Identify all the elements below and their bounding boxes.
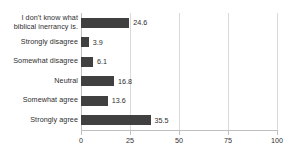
bar-value-label: 13.6 xyxy=(112,97,126,104)
bar[interactable] xyxy=(81,37,89,47)
category-label: Strongly agree xyxy=(0,111,78,131)
bar-row: 6.1 xyxy=(81,52,277,72)
x-axis-tick-label: 25 xyxy=(126,136,134,145)
x-axis-tick-labels: 0255075100 xyxy=(81,136,278,148)
bar-row: 13.6 xyxy=(81,91,277,111)
category-axis-labels: I don't know whatbiblical inerrancy is.S… xyxy=(0,13,78,130)
category-label: Somewhat agree xyxy=(0,91,78,111)
x-axis-tick xyxy=(228,131,229,135)
category-label: Somewhat disagree xyxy=(0,52,78,72)
x-axis-tick xyxy=(130,131,131,135)
bar-row: 3.9 xyxy=(81,33,277,53)
x-axis-tick xyxy=(277,131,278,135)
gridline xyxy=(277,13,278,130)
x-axis-tick xyxy=(179,131,180,135)
bar-value-label: 35.5 xyxy=(155,117,169,124)
category-label: Strongly disagree xyxy=(0,33,78,53)
x-axis-tick-label: 100 xyxy=(271,136,283,145)
bar-chart: I don't know whatbiblical inerrancy is.S… xyxy=(0,0,289,163)
chart-title xyxy=(0,0,289,11)
category-label: I don't know whatbiblical inerrancy is. xyxy=(0,13,78,33)
bar-row: 24.6 xyxy=(81,13,277,33)
x-axis-tick xyxy=(81,131,82,135)
bar[interactable] xyxy=(81,18,129,28)
bar-row: 16.8 xyxy=(81,72,277,92)
category-label: Neutral xyxy=(0,72,78,92)
bar-row: 35.5 xyxy=(81,111,277,131)
bar[interactable] xyxy=(81,57,93,67)
bar[interactable] xyxy=(81,76,114,86)
bar[interactable] xyxy=(81,96,108,106)
x-axis-tick-label: 75 xyxy=(224,136,232,145)
x-axis-tick-label: 50 xyxy=(175,136,183,145)
x-axis-tickmarks xyxy=(81,131,278,135)
bar-value-label: 6.1 xyxy=(97,58,107,65)
bar-value-label: 3.9 xyxy=(93,39,103,46)
x-axis-tick-label: 0 xyxy=(79,136,83,145)
bar-value-label: 24.6 xyxy=(133,19,147,26)
plot-area: 24.63.96.116.813.635.5 xyxy=(81,13,277,130)
bar[interactable] xyxy=(81,115,151,125)
bar-value-label: 16.8 xyxy=(118,78,132,85)
